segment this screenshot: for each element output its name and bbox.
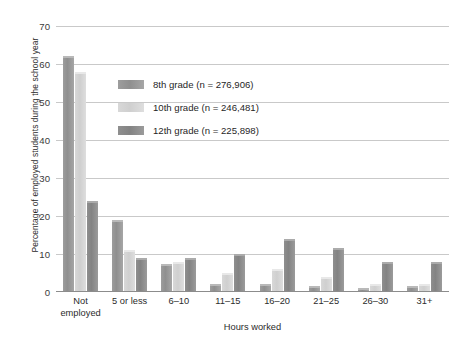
bar-cap [124,250,135,252]
x-tick-label: 5 or less [105,296,154,319]
bar[interactable] [161,264,172,293]
x-tick-label: 21–25 [302,296,351,319]
y-tick-label: 60 [8,59,50,70]
x-axis-ticks: Notemployed5 or less6–1011–1516–2021–252… [56,296,449,319]
bar-cap [284,239,295,241]
bar-cap [185,258,196,260]
bar-face [112,220,123,292]
bar-face [124,250,135,292]
bar[interactable] [321,277,332,292]
chart-legend: 8th grade (n = 276,906)10th grade (n = 2… [118,76,259,145]
bar-cap [63,56,74,58]
bar-cap [87,201,98,203]
legend-label: 10th grade (n = 246,481) [153,102,259,113]
bar-face [75,72,86,292]
legend-item[interactable]: 10th grade (n = 246,481) [118,99,259,115]
bar-cap [309,286,320,288]
legend-swatch [118,80,144,89]
y-tick-label: 30 [8,173,50,184]
bar[interactable] [222,273,233,292]
bar[interactable] [87,201,98,292]
bar-group [400,26,449,292]
legend-swatch [118,103,144,112]
bar-cap [161,264,172,266]
bar-group [253,26,302,292]
bar[interactable] [63,56,74,292]
bar-group [56,26,105,292]
y-tick-label: 70 [8,21,50,32]
legend-swatch [118,126,144,135]
bar-cap [358,288,369,290]
bar-face [382,262,393,292]
bar-face [333,248,344,292]
y-tick-label: 20 [8,211,50,222]
bar-cap [272,269,283,271]
y-tick-label: 10 [8,249,50,260]
bar-face [222,273,233,292]
x-axis-title: Hours worked [56,322,449,332]
bar-face [321,277,332,292]
bar-group [203,26,252,292]
bar[interactable] [124,250,135,292]
bar-cap [419,284,430,286]
bar-group [105,26,154,292]
bar[interactable] [185,258,196,292]
bar-chart-figure: Percentage of employed students during t… [0,0,457,343]
x-tick-label: 6–10 [154,296,203,319]
bar[interactable] [136,258,147,292]
bar-face [272,269,283,292]
bar-face [284,239,295,292]
x-tick-label: 16–20 [253,296,302,319]
bar-cap [260,284,271,286]
bar-face [63,56,74,292]
bar-cap [173,262,184,264]
bar-cap [333,248,344,250]
bar[interactable] [431,262,442,292]
bar-cap [234,254,245,256]
x-tick-label: 31+ [400,296,449,319]
bar[interactable] [284,239,295,292]
bar[interactable] [382,262,393,292]
bar-face [185,258,196,292]
bar-group [351,26,400,292]
legend-label: 8th grade (n = 276,906) [153,79,254,90]
bar-group [154,26,203,292]
bar[interactable] [173,262,184,292]
bar-cap [382,262,393,264]
x-tick-label: Notemployed [56,296,105,319]
bar-cap [210,284,221,286]
bar-groups [56,26,449,292]
bar-cap [370,284,381,286]
bar-cap [431,262,442,264]
bar[interactable] [234,254,245,292]
x-axis-line [56,291,449,292]
x-tick-label: 11–15 [203,296,252,319]
bar-cap [222,273,233,275]
bar-face [431,262,442,292]
bar-cap [407,286,418,288]
plot-area: 010203040506070 [56,26,449,292]
legend-label: 12th grade (n = 225,898) [153,125,259,136]
bar[interactable] [112,220,123,292]
bar-group [302,26,351,292]
bar-cap [136,258,147,260]
bar-face [161,264,172,293]
bar-cap [75,72,86,74]
y-tick-label: 50 [8,97,50,108]
bar[interactable] [75,72,86,292]
bar[interactable] [272,269,283,292]
legend-item[interactable]: 12th grade (n = 225,898) [118,122,259,138]
bar-cap [321,277,332,279]
bar-face [87,201,98,292]
legend-item[interactable]: 8th grade (n = 276,906) [118,76,259,92]
y-tick-label: 0 [8,287,50,298]
bar-face [136,258,147,292]
bar-cap [112,220,123,222]
y-tick-label: 40 [8,135,50,146]
bar-face [234,254,245,292]
x-tick-label: 26–30 [351,296,400,319]
bar[interactable] [333,248,344,292]
bar-face [173,262,184,292]
